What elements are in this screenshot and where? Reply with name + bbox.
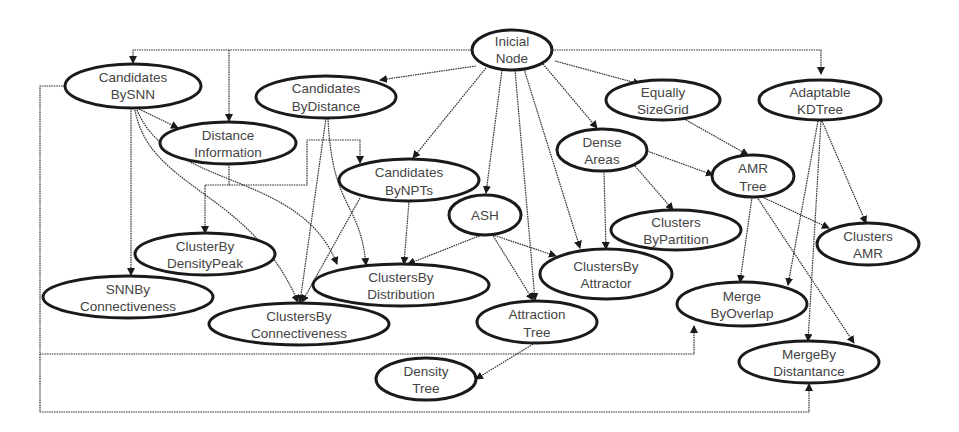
- node-label-line1: ASH: [471, 208, 499, 223]
- edge-equally-sizegrid-to-amr-tree: [686, 120, 748, 155]
- node-amr-tree[interactable]: AMR Tree: [712, 155, 794, 197]
- edge-amr-tree-to-clusters-amr: [760, 196, 829, 228]
- node-label-line1: AMR: [738, 161, 768, 176]
- node-label-line2: AMR: [853, 246, 883, 261]
- edge-adaptable-kdtree-to-mergeby-distantance: [808, 121, 821, 341]
- nodes: Inicial Node Candidates BySNN Candidates…: [43, 30, 919, 400]
- node-label-line2: Attractor: [580, 276, 632, 291]
- node-label-line2: Connectiveness: [251, 326, 347, 341]
- node-label-line2: Tree: [412, 381, 439, 396]
- node-label-line1: Clusters: [651, 215, 701, 230]
- node-clusterby-densitypeak[interactable]: ClusterBy DensityPeak: [135, 233, 275, 275]
- node-label-line2: SizeGrid: [637, 102, 689, 117]
- node-equally-sizegrid[interactable]: Equally SizeGrid: [606, 80, 720, 120]
- node-clusters-bypartition[interactable]: Clusters ByPartition: [611, 210, 741, 250]
- edge-attraction-tree-to-density-tree: [476, 343, 535, 379]
- edge-inicial-to-equally-sizegrid: [555, 61, 640, 84]
- node-label-line1: ClustersBy: [266, 309, 332, 324]
- node-label-line2: ByNPTs: [385, 183, 433, 198]
- node-label-line2: Node: [496, 51, 528, 66]
- node-label-line1: ClusterBy: [176, 239, 235, 254]
- node-label-line2: DensityPeak: [167, 256, 243, 271]
- edge-ash-to-attraction-tree: [492, 234, 533, 300]
- edge-dense-areas-to-clusters-bypartition: [635, 166, 673, 210]
- node-label-line1: Adaptable: [790, 85, 851, 100]
- edge-inicial-to-candidates-bynpts: [413, 68, 486, 158]
- edge-inicial-to-dense-areas: [543, 64, 597, 128]
- node-density-tree[interactable]: Density Tree: [376, 358, 476, 400]
- node-label-line1: Merge: [723, 289, 761, 304]
- node-label-line2: Tree: [523, 325, 550, 340]
- edge-ash-to-clustersby-attractor: [490, 234, 556, 256]
- node-attraction-tree[interactable]: Attraction Tree: [477, 301, 597, 343]
- edge-inicial-to-attraction-tree: [515, 70, 535, 300]
- edge-amr-tree-to-merge-byoverlap: [740, 197, 752, 282]
- node-label-line1: Distance: [202, 128, 255, 143]
- node-label-line2: ByPartition: [643, 232, 708, 247]
- node-label-line1: Candidates: [375, 165, 444, 180]
- node-adaptable-kdtree[interactable]: Adaptable KDTree: [759, 80, 881, 120]
- edge-candidates-bynpts-to-clustersby-distribution: [404, 201, 409, 264]
- node-label-line2: BySNN: [111, 87, 155, 102]
- node-label-line1: ClustersBy: [573, 259, 639, 274]
- node-label-line2: Areas: [584, 152, 620, 167]
- node-label-line1: Attraction: [508, 307, 565, 322]
- node-candidates-bynpts[interactable]: Candidates ByNPTs: [339, 159, 479, 201]
- node-clustersby-attractor[interactable]: ClustersBy Attractor: [540, 249, 672, 299]
- edge-dense-areas-to-clustersby-attractor: [604, 171, 606, 249]
- edge-ash-to-clustersby-distribution: [408, 234, 484, 264]
- node-label-line1: Equally: [641, 85, 686, 100]
- node-label-line1: Candidates: [292, 81, 361, 96]
- edge-dense-areas-to-amr-tree: [647, 151, 713, 175]
- edge-adaptable-kdtree-to-merge-byoverlap: [788, 121, 818, 285]
- node-label-line1: Clusters: [843, 229, 893, 244]
- edge-adaptable-kdtree-to-clusters-amr: [822, 121, 866, 223]
- node-inicial-node[interactable]: Inicial Node: [472, 30, 552, 70]
- node-label-line2: KDTree: [797, 102, 843, 117]
- node-label-line2: Distribution: [367, 287, 435, 302]
- node-dense-areas[interactable]: Dense Areas: [557, 129, 647, 171]
- node-distance-information[interactable]: Distance Information: [160, 122, 296, 164]
- node-clustersby-connectiveness[interactable]: ClustersBy Connectiveness: [209, 303, 389, 345]
- edge-inicial-to-candidates-bydistance: [380, 66, 476, 80]
- node-ash[interactable]: ASH: [449, 195, 521, 235]
- edge-inicial-to-ash: [486, 70, 502, 193]
- edge-candidates-bysnn-to-distance-information: [137, 108, 178, 128]
- node-label-line2: Information: [194, 145, 262, 160]
- node-candidates-bydistance[interactable]: Candidates ByDistance: [256, 76, 396, 118]
- workflow-diagram: Inicial Node Candidates BySNN Candidates…: [0, 0, 959, 432]
- node-label-line1: ClustersBy: [368, 270, 434, 285]
- node-label-line2: Tree: [739, 179, 766, 194]
- edge-inicial-to-adaptable-kdtree: [552, 50, 821, 74]
- node-label-line1: Dense: [582, 135, 621, 150]
- node-label-line2: Distantance: [773, 364, 844, 379]
- node-label-line1: Inicial: [495, 34, 530, 49]
- node-label-line1: MergeBy: [782, 347, 836, 362]
- node-clustersby-distribution[interactable]: ClustersBy Distribution: [313, 264, 489, 306]
- node-snnby-connectiveness[interactable]: SNNBy Connectiveness: [43, 276, 213, 318]
- node-label-line2: ByDistance: [292, 99, 360, 114]
- node-mergeby-distantance[interactable]: MergeBy Distantance: [739, 341, 879, 383]
- node-label-line1: Density: [403, 364, 448, 379]
- node-label-line2: Connectiveness: [80, 299, 176, 314]
- node-label-line1: SNNBy: [106, 282, 151, 297]
- node-candidates-bysnn[interactable]: Candidates BySNN: [65, 64, 201, 108]
- node-label-line2: ByOverlap: [710, 306, 773, 321]
- edge-inicial-to-candidates-bysnn: [133, 50, 472, 63]
- node-label-line1: Candidates: [99, 70, 168, 85]
- node-clusters-amr[interactable]: Clusters AMR: [817, 223, 919, 265]
- node-merge-byoverlap[interactable]: Merge ByOverlap: [677, 282, 807, 326]
